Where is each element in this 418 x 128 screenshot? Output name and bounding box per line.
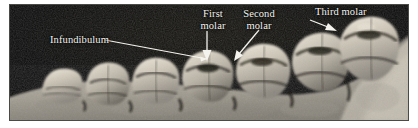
specimen-photograph [10, 5, 408, 120]
figure-root: Infundibulum First molar Second molar Th… [0, 0, 418, 128]
photo-grain-overlay [10, 5, 408, 120]
specimen-illustration [10, 5, 408, 120]
photograph-frame: Infundibulum First molar Second molar Th… [9, 4, 409, 121]
